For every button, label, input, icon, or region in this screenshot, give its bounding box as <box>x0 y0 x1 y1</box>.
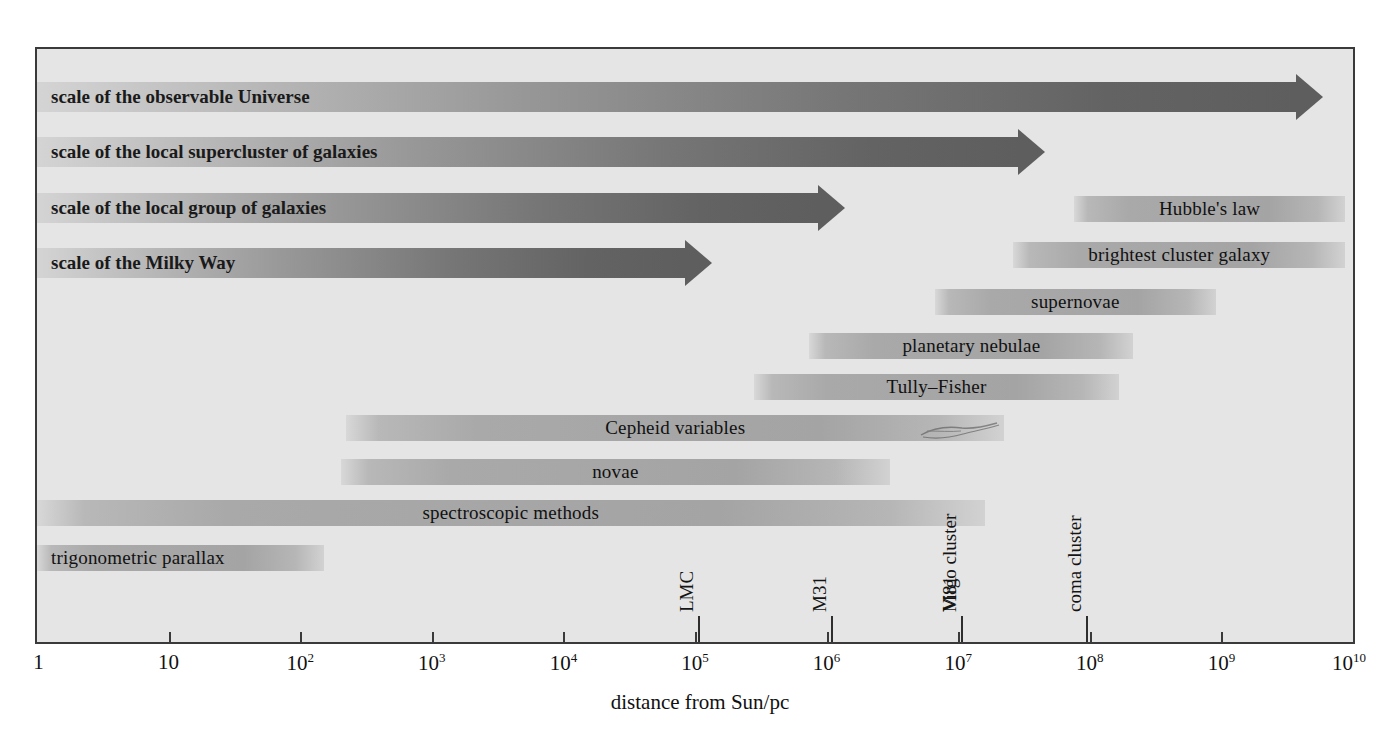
arrow-head-icon <box>685 240 712 286</box>
method-label: novae <box>341 461 890 483</box>
method-range-bar: brightest cluster galaxy <box>1013 242 1345 268</box>
scale-arrow-label: scale of the local supercluster of galax… <box>51 141 377 163</box>
axis-tick-label: 10 <box>158 650 179 675</box>
axis-tick <box>695 632 697 644</box>
object-label: coma cluster <box>1064 515 1086 612</box>
plot-area: scale of the observable Universescale of… <box>37 49 1353 642</box>
axis-tick <box>827 632 829 644</box>
scale-arrow-label: scale of the local group of galaxies <box>51 197 326 219</box>
x-axis: 1101021031041051061071081091010 <box>35 644 1355 684</box>
method-range-bar: novae <box>341 459 890 485</box>
object-tick <box>831 616 833 642</box>
axis-tick <box>958 632 960 644</box>
arrow-head-icon <box>1296 74 1323 120</box>
method-range-bar: supernovae <box>935 289 1217 315</box>
scale-arrow: scale of the local group of galaxies <box>37 193 845 223</box>
method-label: planetary nebulae <box>809 335 1133 357</box>
axis-tick <box>169 632 171 644</box>
arrow-head-icon <box>818 185 845 231</box>
axis-tick-label: 106 <box>813 650 841 676</box>
axis-tick-label: 104 <box>550 650 578 676</box>
plot-frame: scale of the observable Universescale of… <box>35 47 1355 644</box>
handwritten-mark <box>917 419 1003 449</box>
method-label: supernovae <box>935 291 1217 313</box>
axis-tick-label: 107 <box>944 650 972 676</box>
axis-tick-label: 102 <box>286 650 314 676</box>
axis-tick-label: 108 <box>1076 650 1104 676</box>
scale-arrow: scale of the local supercluster of galax… <box>37 137 1045 167</box>
axis-tick <box>300 632 302 644</box>
scale-arrow: scale of the Milky Way <box>37 248 712 278</box>
axis-tick-label: 1010 <box>1332 650 1366 676</box>
method-range-bar: trigonometric parallax <box>37 545 324 571</box>
object-label: LMC <box>676 571 698 612</box>
axis-tick-label: 105 <box>681 650 709 676</box>
method-label: spectroscopic methods <box>37 502 985 524</box>
method-label: brightest cluster galaxy <box>1013 244 1345 266</box>
object-tick <box>698 616 700 642</box>
method-label: trigonometric parallax <box>51 547 225 569</box>
object-tick <box>1086 616 1088 642</box>
object-label: Virgo cluster <box>939 514 961 612</box>
distance-ladder-figure: scale of the observable Universescale of… <box>0 0 1400 729</box>
axis-tick <box>1221 632 1223 644</box>
axis-tick-label: 109 <box>1208 650 1236 676</box>
axis-tick-label: 103 <box>418 650 446 676</box>
axis-tick <box>563 632 565 644</box>
axis-tick-label: 1 <box>33 650 44 675</box>
object-tick <box>961 616 963 642</box>
method-label: Hubble's law <box>1074 198 1345 220</box>
method-range-bar: Hubble's law <box>1074 196 1345 222</box>
scale-arrow: scale of the observable Universe <box>37 82 1323 112</box>
object-label: M31 <box>809 576 831 612</box>
arrow-head-icon <box>1018 129 1045 175</box>
axis-tick <box>1353 632 1355 644</box>
method-range-bar: Tully–Fisher <box>754 374 1119 400</box>
method-label: Tully–Fisher <box>754 376 1119 398</box>
scale-arrow-label: scale of the observable Universe <box>51 86 310 108</box>
x-axis-label: distance from Sun/pc <box>0 690 1400 715</box>
method-range-bar: spectroscopic methods <box>37 500 985 526</box>
axis-tick <box>432 632 434 644</box>
scale-arrow-label: scale of the Milky Way <box>51 252 235 274</box>
method-label: Cepheid variables <box>346 417 1004 439</box>
method-range-bar: planetary nebulae <box>809 333 1133 359</box>
method-range-bar: Cepheid variables <box>346 415 1004 441</box>
axis-tick <box>1090 632 1092 644</box>
